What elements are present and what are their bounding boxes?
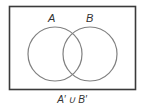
set-b-circle [63, 27, 117, 81]
set-a-label: A [47, 12, 55, 24]
venn-diagram: A B A′ ∪ B′ [0, 0, 142, 109]
set-a-circle [28, 27, 82, 81]
set-b-label: B [86, 12, 93, 24]
diagram-caption: A′ ∪ B′ [56, 94, 88, 105]
